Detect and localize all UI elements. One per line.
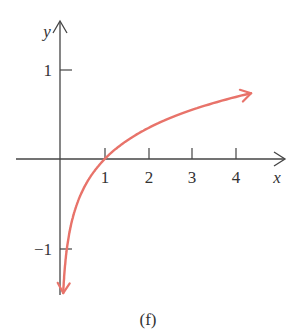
y-tick-label: 1 (44, 61, 53, 80)
axes (16, 21, 285, 295)
x-tick-label: 2 (145, 168, 154, 187)
tick-labels: 1 2 3 4 1 −1 (34, 61, 241, 259)
chart: 1 2 3 4 1 −1 x y (f) (0, 0, 304, 334)
figure-caption: (f) (140, 310, 157, 329)
x-axis-label: x (272, 168, 281, 187)
curve (58, 90, 251, 293)
x-tick-label: 1 (101, 168, 110, 187)
log-curve (63, 93, 251, 293)
x-tick-label: 3 (188, 168, 197, 187)
y-axis-label: y (41, 22, 51, 41)
x-tick-label: 4 (232, 168, 241, 187)
x-ticks (105, 148, 236, 159)
y-tick-label: −1 (34, 240, 52, 259)
